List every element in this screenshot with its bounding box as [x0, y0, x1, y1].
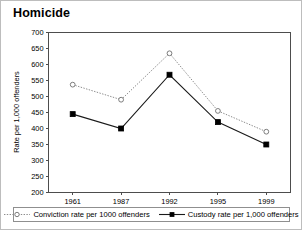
y-axis-label: Rate per 1,000 offenders	[12, 71, 21, 153]
chart-figure: Homicide 2002503003504004505005506006507…	[0, 0, 302, 230]
data-point-marker	[70, 82, 75, 87]
legend-symbol-dotted-open-circle	[4, 210, 30, 219]
data-point-marker	[264, 142, 269, 147]
legend-label-custody: Custody rate per 1,000 offenders	[188, 211, 299, 219]
x-tick-label: 1999	[258, 197, 274, 206]
x-tick-label: 1961	[64, 197, 80, 206]
legend-item-custody: Custody rate per 1,000 offenders	[159, 210, 299, 219]
plot-area: 200250300350400450500550600650700 196119…	[1, 1, 303, 231]
chart-legend: Conviction rate per 1000 offenders Custo…	[13, 207, 290, 222]
series-line-custody	[73, 75, 267, 145]
data-point-marker	[119, 97, 124, 102]
y-axis-ticks: 200250300350400450500550600650700	[31, 28, 48, 197]
y-tick-label: 550	[31, 76, 43, 85]
series-markers-conviction	[70, 51, 268, 134]
data-point-marker	[264, 129, 269, 134]
y-tick-label: 650	[31, 44, 43, 53]
y-tick-label: 250	[31, 172, 43, 181]
plot-frame	[49, 33, 291, 193]
data-point-marker	[216, 109, 221, 114]
y-tick-label: 400	[31, 124, 43, 133]
y-tick-label: 350	[31, 140, 43, 149]
y-tick-label: 300	[31, 156, 43, 165]
legend-label-conviction: Conviction rate per 1000 offenders	[33, 211, 149, 219]
data-point-marker	[70, 112, 75, 117]
data-point-marker	[167, 72, 172, 77]
legend-item-conviction: Conviction rate per 1000 offenders	[4, 210, 149, 219]
x-tick-label: 1992	[161, 197, 177, 206]
legend-symbol-solid-filled-square	[159, 210, 185, 219]
x-tick-label: 1995	[210, 197, 226, 206]
data-point-marker	[167, 51, 172, 56]
data-point-marker	[215, 120, 220, 125]
y-tick-label: 700	[31, 28, 43, 37]
line-chart-svg: 200250300350400450500550600650700 196119…	[1, 1, 303, 231]
y-tick-label: 500	[31, 92, 43, 101]
y-tick-label: 200	[31, 188, 43, 197]
y-tick-label: 600	[31, 60, 43, 69]
x-tick-label: 1987	[113, 197, 129, 206]
series-markers-custody	[70, 72, 269, 147]
y-tick-label: 450	[31, 108, 43, 117]
series-line-conviction	[73, 53, 267, 131]
x-axis-ticks: 19611987199219951999	[64, 193, 274, 206]
data-point-marker	[119, 126, 124, 131]
